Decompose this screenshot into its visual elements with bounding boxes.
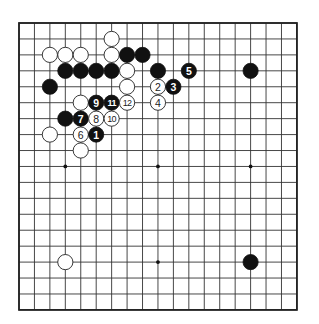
black-stone-icon bbox=[58, 111, 73, 126]
move-number: 4 bbox=[155, 97, 161, 109]
black-stone bbox=[89, 63, 104, 78]
move-number: 2 bbox=[155, 81, 161, 93]
white-stone bbox=[42, 127, 57, 142]
black-stone-icon bbox=[58, 63, 73, 78]
black-stone bbox=[150, 63, 165, 78]
move-number: 7 bbox=[78, 113, 84, 125]
black-stone-move-5: 5 bbox=[181, 63, 196, 78]
white-stone bbox=[119, 79, 134, 94]
white-stone-move-10: 10 bbox=[104, 111, 119, 126]
move-number: 8 bbox=[93, 113, 99, 125]
black-stone-move-3: 3 bbox=[166, 79, 181, 94]
white-stone-move-6: 6 bbox=[73, 127, 88, 142]
black-stone-icon bbox=[104, 63, 119, 78]
move-number: 9 bbox=[93, 97, 99, 109]
black-stone-move-11: 11 bbox=[104, 95, 119, 110]
star-point bbox=[63, 165, 67, 169]
black-stone-icon bbox=[42, 79, 57, 94]
black-stone bbox=[73, 63, 88, 78]
move-number: 10 bbox=[107, 114, 116, 124]
white-stone-move-12: 12 bbox=[119, 95, 134, 110]
white-stone-icon bbox=[104, 47, 119, 62]
white-stone-icon bbox=[42, 127, 57, 142]
star-point bbox=[249, 165, 253, 169]
move-number: 12 bbox=[123, 98, 132, 108]
move-number: 6 bbox=[78, 129, 84, 141]
move-number: 5 bbox=[186, 65, 192, 77]
move-number: 1 bbox=[93, 129, 99, 141]
white-stone bbox=[58, 255, 73, 270]
black-stone-move-9: 9 bbox=[89, 95, 104, 110]
white-stone-icon bbox=[104, 31, 119, 46]
black-stone-icon bbox=[89, 63, 104, 78]
white-stone-icon bbox=[73, 95, 88, 110]
black-stone bbox=[119, 47, 134, 62]
white-stone-icon bbox=[119, 79, 134, 94]
white-stone-icon bbox=[42, 47, 57, 62]
black-stone-move-7: 7 bbox=[73, 111, 88, 126]
black-stone-icon bbox=[135, 47, 150, 62]
star-point bbox=[156, 260, 160, 264]
white-stone-move-2: 2 bbox=[150, 79, 165, 94]
white-stone bbox=[58, 47, 73, 62]
black-stone bbox=[42, 79, 57, 94]
move-number: 3 bbox=[170, 81, 176, 93]
black-stone-icon bbox=[243, 255, 258, 270]
white-stone bbox=[73, 47, 88, 62]
black-stone bbox=[135, 47, 150, 62]
go-board: 523911124781061 bbox=[0, 0, 319, 324]
black-stone bbox=[243, 255, 258, 270]
black-stone bbox=[104, 63, 119, 78]
star-point bbox=[156, 165, 160, 169]
white-stone bbox=[104, 47, 119, 62]
white-stone-icon bbox=[119, 63, 134, 78]
white-stone-icon bbox=[58, 47, 73, 62]
white-stone bbox=[119, 63, 134, 78]
black-stone-icon bbox=[150, 63, 165, 78]
white-stone-move-8: 8 bbox=[89, 111, 104, 126]
black-stone-icon bbox=[73, 63, 88, 78]
white-stone-icon bbox=[58, 255, 73, 270]
move-number: 11 bbox=[107, 98, 116, 108]
black-stone bbox=[58, 63, 73, 78]
white-stone bbox=[42, 47, 57, 62]
white-stone bbox=[73, 95, 88, 110]
black-stone-icon bbox=[119, 47, 134, 62]
white-stone bbox=[73, 143, 88, 158]
black-stone bbox=[243, 63, 258, 78]
white-stone bbox=[104, 31, 119, 46]
white-stone-icon bbox=[73, 47, 88, 62]
white-stone-icon bbox=[73, 143, 88, 158]
white-stone-move-4: 4 bbox=[150, 95, 165, 110]
black-stone bbox=[58, 111, 73, 126]
black-stone-icon bbox=[243, 63, 258, 78]
black-stone-move-1: 1 bbox=[89, 127, 104, 142]
